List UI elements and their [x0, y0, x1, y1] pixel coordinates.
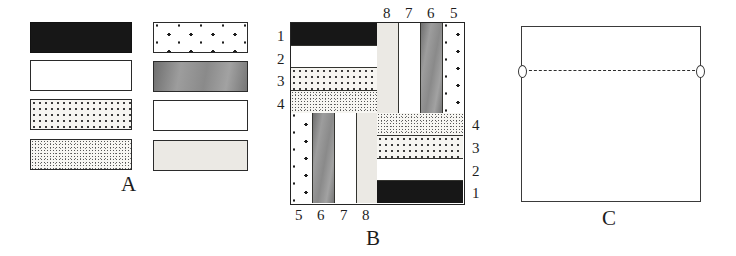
panel-c-caption: C [602, 208, 616, 229]
figure-canvas: A [0, 0, 736, 256]
strip-1 [291, 23, 377, 46]
swatch-5 [153, 22, 248, 53]
swatch-3 [30, 99, 132, 130]
strip-7 [398, 23, 421, 113]
panel-b-caption: B [366, 228, 380, 249]
label-bottom-8: 8 [362, 208, 370, 223]
label-right-3: 3 [472, 141, 480, 156]
quadrant-bottom-right [377, 113, 463, 203]
fold-end-right [696, 65, 705, 78]
strip-7 [334, 113, 357, 203]
fold-end-left [518, 65, 527, 78]
label-bottom-7: 7 [340, 208, 348, 223]
label-left-2: 2 [277, 52, 285, 67]
swatch-8 [153, 140, 248, 171]
strip-4 [377, 113, 463, 136]
label-top-8: 8 [383, 6, 391, 21]
quadrant-bottom-left [291, 113, 377, 203]
strip-3 [291, 67, 377, 91]
strip-8 [356, 113, 377, 203]
pinwheel-block [290, 22, 465, 205]
fold-line-dashed [524, 70, 700, 71]
swatch-2 [30, 60, 132, 91]
strip-5 [291, 113, 313, 203]
strip-2 [377, 158, 463, 181]
strip-1 [377, 180, 463, 203]
strip-3 [377, 135, 463, 159]
swatch-4 [30, 139, 132, 170]
panel-c-sheet [521, 26, 701, 202]
swatch-6 [153, 61, 248, 92]
label-right-1: 1 [472, 186, 480, 201]
strip-8 [377, 23, 399, 113]
swatch-7 [153, 100, 248, 131]
label-left-3: 3 [277, 74, 285, 89]
panel-a-caption: A [121, 174, 136, 195]
label-bottom-6: 6 [317, 208, 325, 223]
strip-6 [312, 113, 335, 203]
label-right-2: 2 [472, 164, 480, 179]
strip-2 [291, 45, 377, 68]
label-right-4: 4 [472, 118, 480, 133]
label-top-5: 5 [450, 6, 458, 21]
label-top-7: 7 [405, 6, 413, 21]
label-top-6: 6 [427, 6, 435, 21]
strip-5 [442, 23, 463, 113]
swatch-1 [30, 22, 132, 53]
quadrant-top-left [291, 23, 377, 113]
strip-4 [291, 90, 377, 113]
quadrant-top-right [377, 23, 463, 113]
label-left-4: 4 [277, 97, 285, 112]
strip-6 [420, 23, 443, 113]
label-bottom-5: 5 [295, 208, 303, 223]
label-left-1: 1 [277, 29, 285, 44]
